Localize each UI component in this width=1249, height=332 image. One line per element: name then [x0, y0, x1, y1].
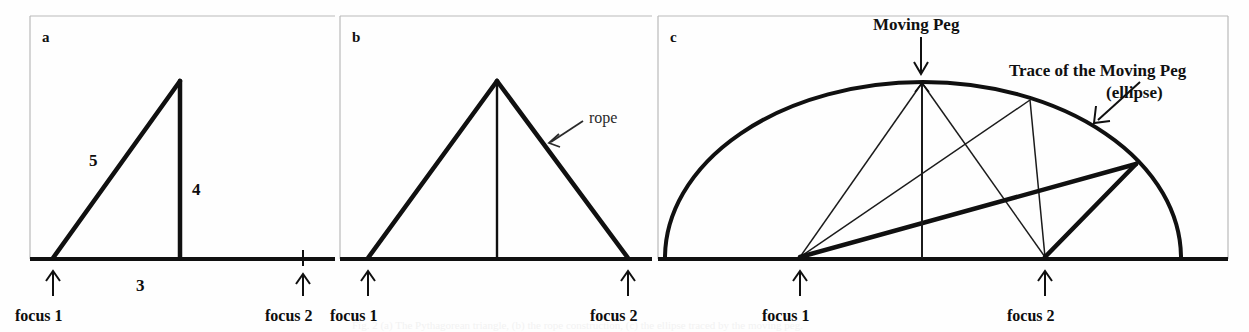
panel-a-hypotenuse — [53, 81, 180, 258]
panel-c-rope-b1 — [800, 100, 1030, 257]
panel-c-rope-c1 — [800, 164, 1136, 257]
figure-container: a b c 5 4 3 focus 1 focus 2 rope focus 1… — [0, 0, 1249, 332]
panel-a-focus1-label: focus 1 — [15, 308, 63, 324]
panel-a-base-label: 3 — [136, 277, 145, 294]
figure-drawing — [0, 0, 1249, 332]
panel-b-rope-right — [497, 81, 628, 258]
panel-c-focus2-arrow — [1038, 271, 1052, 296]
panel-b-rope-callout: rope — [589, 110, 617, 126]
panel-b-focus2-arrow — [621, 271, 635, 296]
panel-c-trace-callout-line2: (ellipse) — [1106, 82, 1163, 103]
panel-c-focus2-label: focus 2 — [1007, 308, 1055, 324]
panel-b-letter: b — [352, 30, 360, 45]
panel-b-rope-left — [368, 81, 497, 258]
panel-a-drawing — [30, 81, 335, 296]
panel-c-trace-callout-line1: Trace of the Moving Peg — [1009, 60, 1186, 81]
panel-c-rope-a1 — [800, 83, 922, 257]
panel-a-hypotenuse-label: 5 — [89, 152, 98, 169]
panel-b-rope-leader — [549, 121, 583, 147]
panel-borders — [30, 16, 1228, 259]
panel-c-moving-peg-leader — [914, 37, 928, 74]
panel-c-letter: c — [670, 30, 677, 45]
panel-c-focus1-arrow — [793, 271, 807, 296]
panel-a-vertical-label: 4 — [192, 181, 201, 198]
panel-b-focus1-arrow — [361, 271, 375, 296]
panel-a-letter: a — [42, 30, 50, 45]
panel-c-rope-b2 — [1030, 100, 1045, 257]
panel-a-focus1-arrow — [46, 271, 60, 296]
figure-ghost-caption: Fig. 2 (a) The Pythagorean triangle, (b)… — [352, 320, 803, 331]
panel-c-moving-peg-callout: Moving Peg — [873, 14, 959, 35]
panel-a-focus2-arrow — [296, 274, 310, 296]
panel-c-rope-a2 — [922, 83, 1045, 257]
panel-a-focus2-label: focus 2 — [265, 308, 313, 324]
